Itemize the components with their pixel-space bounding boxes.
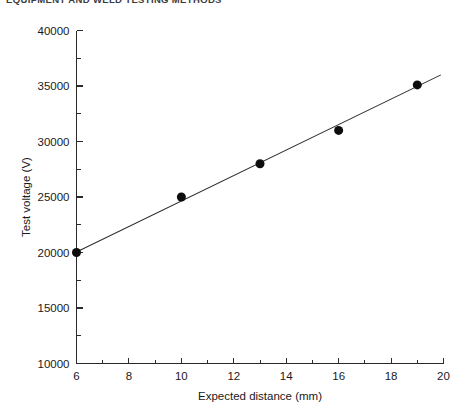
x-axis-tick-labels: 68101214161820 [73, 370, 450, 382]
x-tick-label: 14 [280, 370, 293, 382]
y-tick-label: 35000 [38, 80, 70, 92]
data-point [72, 248, 81, 257]
scatter-chart-figure: 10000150002000025000300003500040000 6810… [0, 0, 462, 418]
x-axis-title: Expected distance (mm) [198, 390, 322, 402]
y-axis-title: Test voltage (V) [20, 157, 32, 237]
x-tick-label: 20 [437, 370, 450, 382]
axes-group [77, 31, 444, 364]
x-tick-label: 8 [126, 370, 132, 382]
x-tick-label: 10 [175, 370, 188, 382]
x-tick-label: 18 [385, 370, 398, 382]
y-axis-tick-labels: 10000150002000025000300003500040000 [38, 25, 70, 370]
data-point [177, 193, 186, 202]
y-tick-label: 40000 [38, 25, 70, 37]
plot-canvas: 10000150002000025000300003500040000 6810… [0, 0, 462, 418]
data-point [256, 159, 265, 168]
x-tick-label: 12 [227, 370, 240, 382]
x-tick-label: 6 [73, 370, 79, 382]
data-point [413, 80, 422, 89]
data-point [334, 126, 343, 135]
y-tick-label: 20000 [38, 247, 70, 259]
y-tick-label: 25000 [38, 191, 70, 203]
y-tick-label: 30000 [38, 136, 70, 148]
x-tick-label: 16 [332, 370, 345, 382]
x-axis-minor-ticks [103, 360, 418, 364]
y-tick-label: 10000 [38, 358, 70, 370]
y-tick-label: 15000 [38, 302, 70, 314]
y-axis-major-ticks [77, 31, 83, 364]
